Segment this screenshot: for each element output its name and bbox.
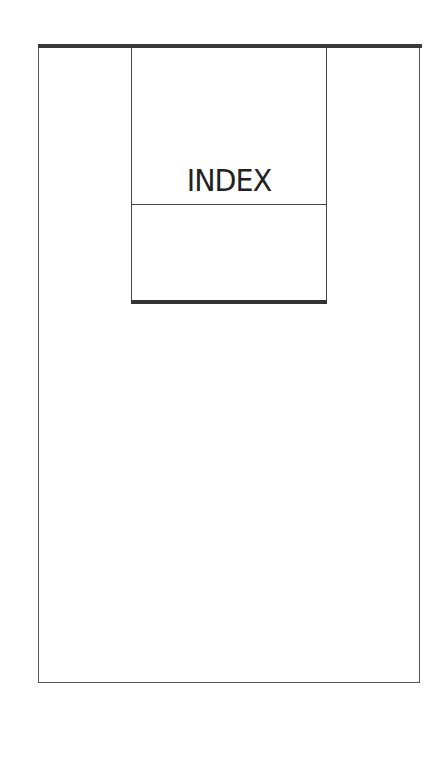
title-panel: INDEX: [132, 48, 326, 205]
page-title: INDEX: [140, 162, 318, 198]
title-box-bottom-rule: [131, 300, 327, 304]
title-box: INDEX: [131, 48, 327, 300]
